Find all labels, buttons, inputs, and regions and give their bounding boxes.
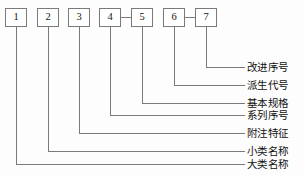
callout-label-category-name: 大类名称: [247, 159, 288, 170]
product-code-callout-diagram: 1 2 3 4 5 6 7 改进序号 派生代号 基本规格 系列序号 附注特征 小…: [0, 0, 305, 175]
code-box-3-label: 3: [76, 12, 81, 23]
code-box-1-label: 1: [13, 12, 18, 23]
callout-label-improvement-serial: 改进序号: [247, 62, 288, 73]
code-box-4-label: 4: [107, 12, 112, 23]
callout-label-series-serial: 系列序号: [247, 110, 288, 121]
callout-label-derivative-code: 派生代号: [247, 80, 288, 91]
callout-label-basic-spec: 基本规格: [247, 98, 288, 109]
code-box-2[interactable]: 2: [37, 8, 59, 27]
code-box-2-label: 2: [45, 12, 50, 23]
code-box-1[interactable]: 1: [5, 8, 27, 27]
callout-label-subcategory-name: 小类名称: [247, 146, 288, 157]
code-box-3[interactable]: 3: [68, 8, 90, 27]
code-box-6[interactable]: 6: [163, 8, 185, 27]
code-box-6-label: 6: [171, 12, 176, 23]
code-box-7-label: 7: [203, 12, 208, 23]
code-box-5[interactable]: 5: [131, 8, 153, 27]
code-box-5-label: 5: [139, 12, 144, 23]
code-box-4[interactable]: 4: [99, 8, 121, 27]
code-box-7[interactable]: 7: [195, 8, 217, 27]
callout-label-note-feature: 附注特征: [247, 128, 288, 139]
